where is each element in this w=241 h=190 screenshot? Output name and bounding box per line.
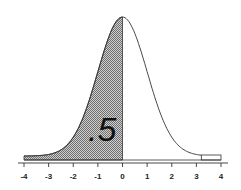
x-tick-label: -1 [94, 172, 102, 181]
area-annotation: .5 [88, 110, 116, 148]
x-tick-label: 1 [145, 172, 150, 181]
x-axis-ticks: -4-3-2-101234 [20, 163, 223, 181]
x-tick-label: 3 [194, 172, 199, 181]
x-tick-label: 4 [219, 172, 224, 181]
x-tick-label: -2 [70, 172, 78, 181]
x-tick-label: -3 [45, 172, 53, 181]
normal-distribution-chart: -4-3-2-101234 .5 [0, 0, 241, 190]
x-tick-label: 2 [170, 172, 175, 181]
x-tick-label: -4 [20, 172, 28, 181]
x-tick-label: 0 [120, 172, 125, 181]
